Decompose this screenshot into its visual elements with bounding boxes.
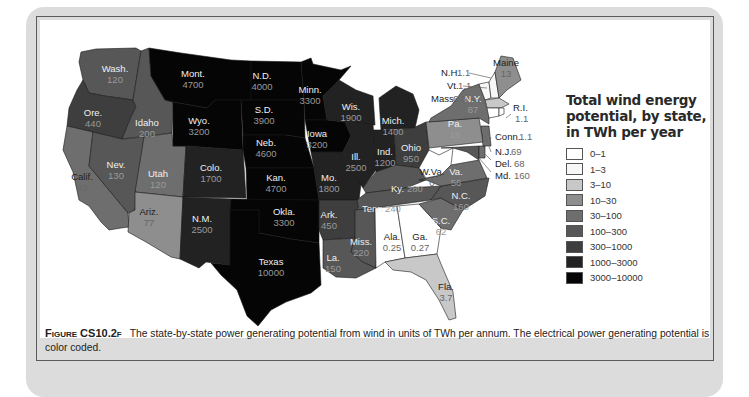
label-wis: Wis. <box>342 101 360 112</box>
value-nj: 69 <box>511 146 522 157</box>
value-idaho: 200 <box>139 128 155 139</box>
label-ark: Ark. <box>321 209 338 220</box>
state-ariz <box>128 192 183 259</box>
legend-item: 3000–10000 <box>566 270 716 286</box>
value-colo: 1700 <box>200 173 221 184</box>
label-tenn: Tenn. <box>362 203 385 214</box>
label-nc: N.C. <box>452 190 471 201</box>
value-nev: 130 <box>108 170 124 181</box>
caption-text: The state-by-state power generating pote… <box>45 328 709 353</box>
legend-item: 1000–3000 <box>566 255 716 271</box>
value-tenn: 240 <box>385 203 401 214</box>
label-ny: N.Y. <box>464 93 481 104</box>
label-ri: R.I. <box>513 102 528 113</box>
value-mass: 6.3 <box>453 93 466 104</box>
figure-caption: Figure CS10.2fThe state-by-state power g… <box>45 326 710 355</box>
legend-swatch <box>566 225 583 237</box>
label-va: Va. <box>449 166 463 177</box>
label-la: La. <box>326 252 339 263</box>
label-ky: Ky. <box>391 183 404 194</box>
label-vt: Vt. <box>447 80 459 91</box>
label-ariz: Ariz. <box>140 206 159 217</box>
map-legend: Total wind energy potential, by state, i… <box>566 92 716 286</box>
legend-swatch <box>566 163 583 175</box>
value-ky: 280 <box>407 183 423 194</box>
legend-label: 1–3 <box>590 164 606 175</box>
state-del <box>479 146 485 158</box>
value-utah: 120 <box>150 179 166 190</box>
value-ohio: 950 <box>403 153 419 164</box>
label-calif: Calif. <box>71 171 93 182</box>
legend-title-line: potential, by state, <box>566 108 716 124</box>
legend-label: 3–10 <box>590 179 611 190</box>
label-md: Md. <box>495 170 511 181</box>
value-wyo: 3200 <box>188 126 209 137</box>
legend-label: 1000–3000 <box>590 257 638 268</box>
legend-swatch <box>566 179 583 191</box>
label-mont: Mont. <box>181 68 205 79</box>
legend-item: 10–30 <box>566 193 716 209</box>
value-wis: 1900 <box>340 112 361 123</box>
value-fla: 3.7 <box>439 292 452 303</box>
legend-item: 30–100 <box>566 208 716 224</box>
label-iowa: Iowa <box>307 128 328 139</box>
figure-label: Figure CS10.2f <box>45 327 122 339</box>
label-nev: Nev. <box>107 159 126 170</box>
value-md: 160 <box>514 170 530 181</box>
value-nc: 160 <box>453 201 469 212</box>
legend-item: 0–1 <box>566 146 716 162</box>
state-mass <box>485 98 509 108</box>
label-mich: Mich. <box>382 115 405 126</box>
value-ark: 450 <box>321 220 337 231</box>
value-ariz: 77 <box>144 217 155 228</box>
legend-label: 0–1 <box>590 148 606 159</box>
value-pa: 16 <box>450 129 461 140</box>
value-ore: 440 <box>85 118 101 129</box>
value-wva: 0 <box>429 177 434 188</box>
legend-swatch <box>566 256 583 268</box>
legend-label: 10–30 <box>590 195 616 206</box>
value-texas: 10000 <box>258 267 284 278</box>
legend-title-line: Total wind energy <box>566 92 716 108</box>
value-sc: 62 <box>436 226 447 237</box>
label-pa: Pa. <box>448 118 462 129</box>
legend-item: 3–10 <box>566 177 716 193</box>
value-mont: 4700 <box>182 79 203 90</box>
label-sd: S.D. <box>255 104 273 115</box>
state-ri <box>499 108 504 116</box>
label-kan: Kan. <box>266 172 286 183</box>
label-fla: Fla. <box>438 281 454 292</box>
value-mo: 1800 <box>318 183 339 194</box>
value-ind: 1200 <box>374 157 395 168</box>
label-miss: Miss. <box>350 236 372 247</box>
label-nj: N.J. <box>495 146 512 157</box>
value-ala: 0.25 <box>383 242 402 253</box>
state-conn <box>487 108 499 118</box>
legend-title: Total wind energy potential, by state, i… <box>566 92 716 140</box>
value-neb: 4600 <box>255 148 276 159</box>
value-nh: 1.1 <box>457 67 470 78</box>
label-neb: Neb. <box>256 137 276 148</box>
legend-label: 100–300 <box>590 226 627 237</box>
label-sc: S.C. <box>432 215 450 226</box>
value-del: 68 <box>514 158 525 169</box>
value-ill: 2500 <box>345 162 366 173</box>
value-wash: 120 <box>107 74 123 85</box>
label-minn: Minn. <box>298 84 321 95</box>
label-okla: Okla. <box>273 206 295 217</box>
label-ore: Ore. <box>84 107 102 118</box>
legend-item: 100–300 <box>566 224 716 240</box>
label-utah: Utah <box>148 168 168 179</box>
value-va: 56 <box>451 177 462 188</box>
label-nd: N.D. <box>253 70 272 81</box>
value-la: 150 <box>325 263 341 274</box>
value-iowa: 3200 <box>306 139 327 150</box>
label-idaho: Idaho <box>135 117 159 128</box>
legend-swatch <box>566 272 583 284</box>
label-wva: W.Va. <box>420 166 445 177</box>
value-nm: 2500 <box>191 224 212 235</box>
value-miss: 220 <box>353 247 369 258</box>
value-ri: 1.1 <box>515 113 528 124</box>
value-maine: 13 <box>501 68 512 79</box>
label-texas: Texas <box>259 256 284 267</box>
